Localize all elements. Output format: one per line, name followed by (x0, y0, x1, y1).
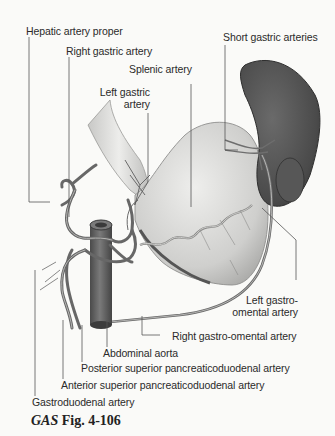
label-left-gastro-omental-line2: omental artery (228, 306, 298, 318)
label-posterior-superior-pancreaticoduodenal-artery: Posterior superior pancreaticoduodenal a… (81, 362, 290, 374)
label-left-gastric-artery-line1: Left gastric (99, 86, 150, 98)
label-right-gastro-omental-artery: Right gastro-omental artery (172, 330, 297, 342)
label-hepatic-artery-proper: Hepatic artery proper (26, 25, 123, 37)
figure-caption: GAS Fig. 4-106 (31, 413, 121, 429)
caption-figure-number: Fig. 4-106 (62, 413, 121, 428)
label-anterior-superior-pancreaticoduodenal-artery: Anterior superior pancreaticoduodenal ar… (61, 379, 264, 391)
label-right-gastric-artery: Right gastric artery (66, 45, 152, 57)
label-gastroduodenal-artery: Gastroduodenal artery (32, 396, 134, 408)
label-splenic-artery: Splenic artery (129, 63, 192, 75)
label-left-gastric-artery-line2: artery (99, 98, 150, 110)
stomach (135, 122, 268, 285)
caption-prefix: GAS (31, 413, 58, 428)
label-short-gastric-arteries: Short gastric arteries (223, 31, 318, 43)
label-abdominal-aorta: Abdominal aorta (103, 347, 178, 359)
duodenal-branches (40, 262, 60, 290)
abdominal-aorta (90, 220, 112, 329)
label-left-gastro-omental-line1: Left gastro- (240, 294, 298, 306)
